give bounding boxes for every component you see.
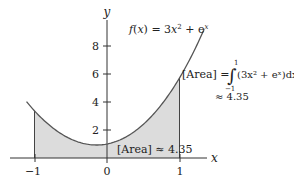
area-label: [Area] ≈ 4.35 (117, 143, 193, 156)
integral-upper-limit: 1 (234, 59, 238, 67)
integral-annotation: [Area] = ∫ 1 −1 (3x² + eˣ)dx ≈ 4.35 (182, 59, 294, 102)
y-tick-label-4: 4 (92, 96, 99, 109)
function-label: f(x) = 3x2 + ex (128, 23, 209, 36)
y-axis-label: y (103, 5, 111, 19)
integrand: (3x² + eˣ)dx (237, 69, 294, 80)
integral-lhs: [Area] = (182, 68, 230, 81)
function-area-diagram: 8 6 4 2 −1 0 1 x y f(x) = 3x2 + ex [Area… (0, 0, 294, 183)
x-tick-label-neg1: −1 (25, 165, 41, 178)
x-tick-label-1: 1 (177, 165, 184, 178)
x-tick-label-0: 0 (104, 165, 111, 178)
x-axis-label: x (211, 151, 218, 165)
y-tick-label-8: 8 (92, 40, 99, 53)
integral-approx: ≈ 4.35 (215, 91, 249, 102)
y-tick-label-6: 6 (92, 68, 99, 81)
y-tick-label-2: 2 (92, 124, 99, 137)
integral-sign: ∫ (227, 65, 237, 86)
